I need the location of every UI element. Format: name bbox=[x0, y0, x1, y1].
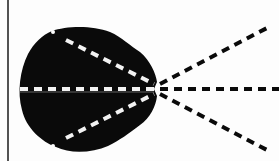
focal-point bbox=[155, 87, 159, 91]
ray-diagram bbox=[0, 0, 279, 161]
blob-notch-bottom bbox=[51, 144, 55, 148]
blob-notch-top bbox=[51, 30, 55, 34]
